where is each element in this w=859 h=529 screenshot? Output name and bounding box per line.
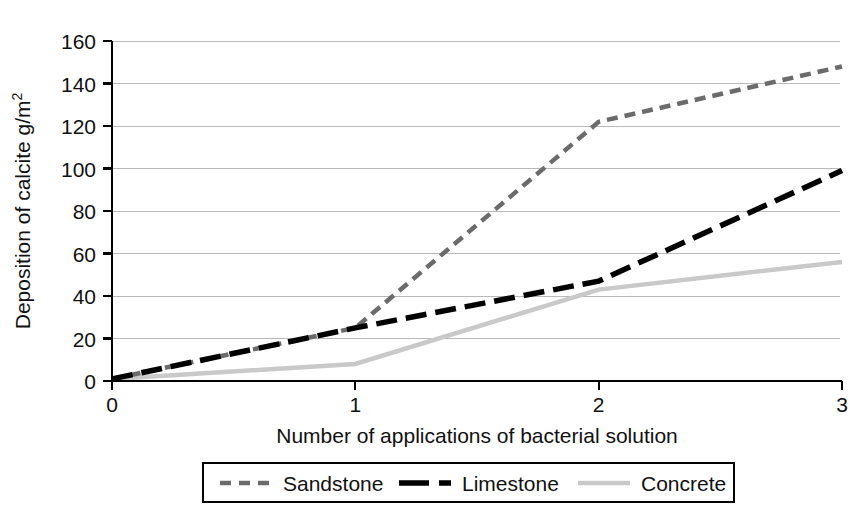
- line-chart: 160 140 120 100 80 60 40 20 0 0 1 2 3 Nu…: [0, 0, 859, 529]
- y-tick-label-40: 40: [73, 285, 96, 308]
- x-axis-tick-labels: 0 1 2 3: [106, 393, 848, 416]
- legend-label-limestone: Limestone: [462, 472, 559, 495]
- x-axis-ticks: [112, 381, 842, 390]
- y-tick-label-0: 0: [84, 370, 96, 393]
- x-axis-title: Number of applications of bacterial solu…: [276, 424, 678, 447]
- legend-label-sandstone: Sandstone: [283, 472, 383, 495]
- y-tick-label-160: 160: [61, 30, 96, 53]
- chart-legend: Sandstone Limestone Concrete: [203, 463, 734, 502]
- y-axis-title-group: Deposition of calcite g/m2: [9, 93, 34, 330]
- x-tick-label-1: 1: [349, 393, 361, 416]
- y-tick-label-140: 140: [61, 73, 96, 96]
- series-group: [112, 67, 842, 379]
- series-line-concrete: [112, 262, 842, 379]
- y-axis-ticks: [103, 41, 112, 381]
- legend-label-concrete: Concrete: [641, 472, 726, 495]
- chart-figure: 160 140 120 100 80 60 40 20 0 0 1 2 3 Nu…: [0, 0, 859, 529]
- y-axis-title-text: Deposition of calcite g/m: [11, 101, 34, 330]
- x-tick-label-2: 2: [593, 393, 605, 416]
- gridlines: [112, 41, 840, 339]
- y-axis-tick-labels: 160 140 120 100 80 60 40 20 0: [61, 30, 96, 393]
- x-tick-label-0: 0: [106, 393, 118, 416]
- y-axis-title: Deposition of calcite g/m2: [9, 93, 34, 330]
- y-axis-title-superscript: 2: [9, 93, 25, 101]
- y-tick-label-100: 100: [61, 158, 96, 181]
- x-tick-label-3: 3: [836, 393, 848, 416]
- y-tick-label-60: 60: [73, 243, 96, 266]
- y-tick-label-120: 120: [61, 115, 96, 138]
- y-tick-label-20: 20: [73, 328, 96, 351]
- y-tick-label-80: 80: [73, 200, 96, 223]
